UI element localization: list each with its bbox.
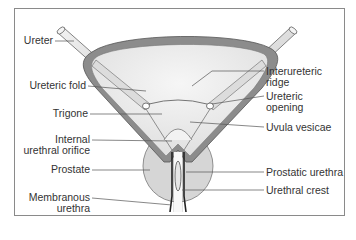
label-internal-urethral-orifice: Internal urethral orifice xyxy=(18,134,90,156)
label-membranous-urethra: Membranous urethra xyxy=(18,192,90,214)
label-urethral-crest: Urethral crest xyxy=(266,185,329,196)
label-trigone: Trigone xyxy=(20,108,88,119)
label-uvula-vesicae: Uvula vesicae xyxy=(266,122,331,133)
label-prostatic-urethra: Prostatic urethra xyxy=(266,167,343,178)
label-ureter: Ureter xyxy=(20,35,53,46)
ureteric-opening-left xyxy=(143,103,150,109)
label-ureteric-opening: Ureteric opening xyxy=(266,91,303,113)
label-ureteric-fold: Ureteric fold xyxy=(20,80,86,91)
label-interureteric-ridge: Interureteric ridge xyxy=(266,66,322,88)
urethral-crest xyxy=(175,161,181,191)
label-prostate: Prostate xyxy=(20,164,90,175)
